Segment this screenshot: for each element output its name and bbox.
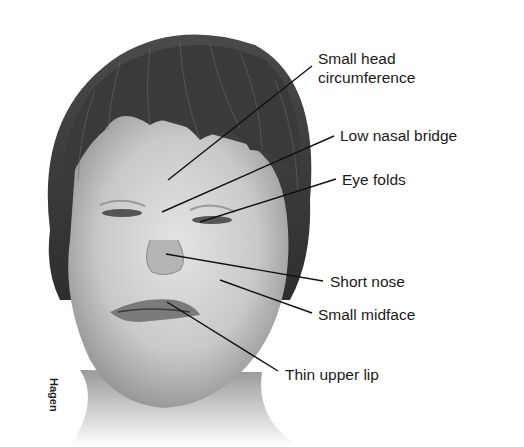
label-small-midface: Small midface <box>318 305 415 324</box>
label-line: circumference <box>318 68 415 87</box>
label-short-nose: Short nose <box>330 272 405 291</box>
label-thin-upper-lip: Thin upper lip <box>285 365 379 384</box>
label-line: Small head <box>318 49 415 68</box>
right-eye <box>192 216 232 224</box>
face-illustration <box>0 0 524 447</box>
label-eye-folds: Eye folds <box>342 170 406 189</box>
artist-signature: Hagen <box>48 378 60 412</box>
labeled-face-figure: Small head circumference Low nasal bridg… <box>0 0 524 447</box>
nose <box>146 240 183 275</box>
left-eye <box>102 209 142 217</box>
label-low-nasal-bridge: Low nasal bridge <box>340 126 457 145</box>
label-small-head-circumference: Small head circumference <box>318 49 415 87</box>
